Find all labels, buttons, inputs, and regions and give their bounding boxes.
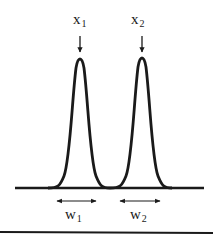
peak-1-label-sub: 1 [82, 18, 87, 29]
width-1-label-sub: 1 [77, 213, 82, 224]
peak-2-label: x2 [131, 12, 145, 29]
width-2-label: w2 [130, 207, 147, 224]
peak-2-label-main: x [131, 11, 139, 27]
peak-1-label: x1 [73, 12, 87, 29]
width-1-label-main: w [65, 206, 76, 222]
peak-2-curve [110, 58, 172, 188]
bottom-rule [0, 232, 213, 233]
width-2-label-sub: 2 [142, 213, 147, 224]
diagram-canvas [0, 0, 213, 238]
peak-1-curve [48, 59, 110, 188]
peak-1-label-main: x [73, 11, 81, 27]
peak-2-label-sub: 2 [140, 18, 145, 29]
width-2-label-main: w [130, 206, 141, 222]
width-1-label: w1 [65, 207, 82, 224]
